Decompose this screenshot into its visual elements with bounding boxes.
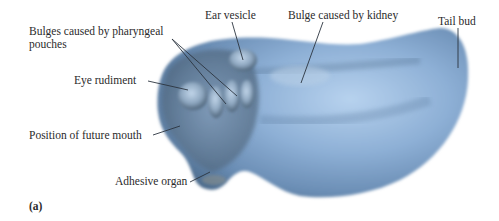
label-future-mouth: Position of future mouth bbox=[29, 129, 142, 142]
pharyngeal-bulge-2 bbox=[224, 80, 240, 112]
label-pharyngeal-line2: pouches bbox=[29, 38, 163, 51]
pharyngeal-bulge-3 bbox=[240, 80, 254, 108]
label-ear-vesicle: Ear vesicle bbox=[205, 9, 256, 22]
label-pharyngeal-pouches: Bulges caused by pharyngeal pouches bbox=[29, 25, 163, 51]
label-tail-bud: Tail bud bbox=[438, 15, 476, 28]
panel-label: (a) bbox=[29, 200, 42, 212]
label-pharyngeal-line1: Bulges caused by pharyngeal bbox=[29, 25, 163, 38]
label-kidney-bulge: Bulge caused by kidney bbox=[288, 9, 398, 22]
kidney-bulge bbox=[270, 66, 330, 86]
label-eye-rudiment: Eye rudiment bbox=[74, 74, 136, 87]
pharyngeal-bulge-1 bbox=[208, 86, 224, 118]
label-adhesive-organ: Adhesive organ bbox=[115, 175, 187, 188]
eye-rudiment bbox=[178, 82, 208, 110]
adhesive-organ bbox=[202, 175, 226, 185]
